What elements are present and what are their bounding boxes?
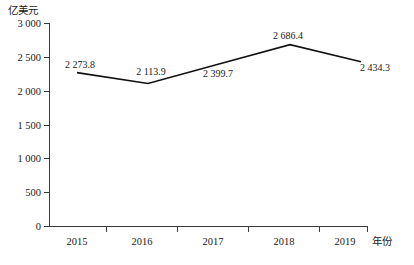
x-tick-label-2015: 2015 — [67, 236, 88, 247]
data-label-2015: 2 273.8 — [65, 59, 95, 70]
x-axis-tick-labels: 2015 2016 2017 2018 2019 — [67, 236, 356, 247]
x-axis-ticks — [107, 227, 368, 233]
y-tick-label-500: 500 — [25, 187, 41, 198]
line-chart: 亿美元 年份 3 000 2 500 2 000 1 500 1 000 500… — [0, 0, 414, 265]
data-point-labels: 2 273.8 2 113.9 2 399.7 2 686.4 2 434.3 — [65, 30, 390, 79]
x-tick-label-2016: 2016 — [132, 236, 153, 247]
y-axis-ticks — [44, 24, 50, 227]
x-tick-label-2019: 2019 — [335, 236, 356, 247]
y-tick-label-1000: 1 000 — [17, 153, 41, 164]
data-label-2017: 2 399.7 — [203, 68, 233, 79]
y-tick-label-0: 0 — [36, 221, 41, 232]
y-tick-label-1500: 1 500 — [17, 120, 41, 131]
y-tick-label-2000: 2 000 — [17, 86, 41, 97]
y-tick-label-3000: 3 000 — [17, 18, 41, 29]
y-tick-label-2500: 2 500 — [17, 52, 41, 63]
chart-canvas: 亿美元 年份 3 000 2 500 2 000 1 500 1 000 500… — [0, 0, 414, 265]
data-label-2016: 2 113.9 — [136, 66, 166, 77]
x-axis-title: 年份 — [372, 235, 393, 247]
y-axis-title: 亿美元 — [8, 4, 39, 16]
x-tick-label-2018: 2018 — [274, 236, 295, 247]
y-axis-tick-labels: 3 000 2 500 2 000 1 500 1 000 500 0 — [17, 18, 41, 232]
data-label-2018: 2 686.4 — [273, 30, 303, 41]
x-tick-label-2017: 2017 — [203, 236, 224, 247]
data-label-2019: 2 434.3 — [360, 62, 390, 73]
